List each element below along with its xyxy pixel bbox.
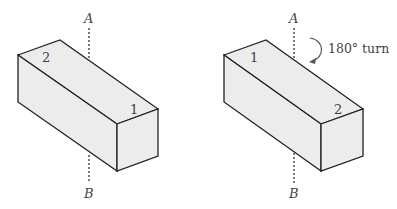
box-before: A B 2 1 (18, 11, 158, 201)
rotation-label: 180° turn (328, 41, 389, 56)
face-label-back: 1 (250, 50, 258, 65)
axis-label-b: B (288, 186, 299, 201)
axis-label-a: A (288, 11, 298, 26)
axis-label-a: A (83, 11, 93, 26)
diagram-canvas: A B 2 1 A B 1 2 180° turn (0, 0, 397, 209)
face-label-front: 2 (334, 102, 342, 117)
rotation-arrowhead-icon (309, 58, 316, 64)
box-after: A B 1 2 180° turn (224, 11, 389, 201)
rotation-arrow-icon (310, 38, 322, 61)
face-label-front: 1 (130, 102, 138, 117)
axis-label-b: B (83, 186, 94, 201)
face-label-back: 2 (42, 50, 50, 65)
